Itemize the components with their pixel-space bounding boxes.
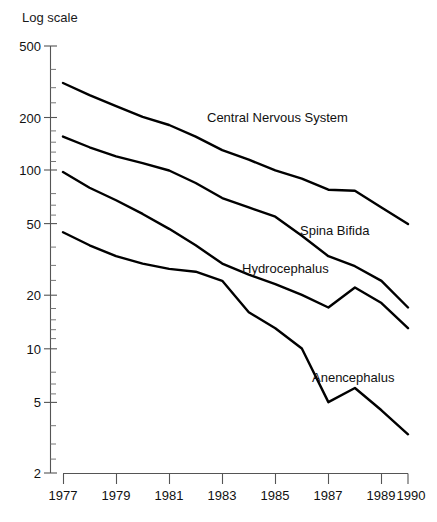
x-label-1989: 1989 (367, 488, 396, 503)
series-label-spina-bifida: Spina Bifida (300, 223, 370, 238)
series-label-anencephalus: Anencephalus (312, 370, 395, 385)
x-label-1985: 1985 (261, 488, 290, 503)
y-label-2: 2 (34, 466, 41, 481)
series-label-hydrocephalus: Hydrocephalus (242, 261, 329, 276)
x-label-1981: 1981 (155, 488, 184, 503)
y-label-500: 500 (19, 39, 41, 54)
series-line-hydrocephalus (63, 172, 408, 328)
x-label-1979: 1979 (102, 488, 131, 503)
y-axis: 500 200 100 50 20 10 5 2 (19, 39, 57, 481)
x-axis: 1977 1979 1981 1983 1985 1987 1989 1990 (49, 474, 426, 504)
chart-canvas: 500 200 100 50 20 10 5 2 1977 1979 1981 … (0, 0, 437, 522)
series-label-central-nervous-system: Central Nervous System (207, 110, 348, 125)
y-label-5: 5 (34, 395, 41, 410)
x-label-1990: 1990 (397, 488, 426, 503)
y-label-200: 200 (19, 111, 41, 126)
x-label-1977: 1977 (49, 488, 78, 503)
x-label-1987: 1987 (314, 488, 343, 503)
x-label-1983: 1983 (208, 488, 237, 503)
y-label-50: 50 (27, 217, 41, 232)
y-label-100: 100 (19, 163, 41, 178)
series-labels: Central Nervous System Spina Bifida Hydr… (207, 110, 395, 385)
series-line-anencephalus (63, 232, 408, 434)
y-label-20: 20 (27, 288, 41, 303)
y-label-10: 10 (27, 342, 41, 357)
line-chart: Log scale (0, 0, 437, 522)
